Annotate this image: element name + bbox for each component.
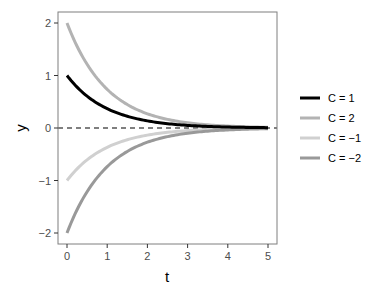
x-tick-label: 1 bbox=[104, 250, 110, 262]
y-tick-label: 0 bbox=[45, 122, 51, 134]
legend-item: C = −1 bbox=[300, 132, 361, 144]
legend-label: C = 2 bbox=[328, 112, 355, 124]
x-axis: 012345 bbox=[64, 244, 271, 262]
legend-item: C = −2 bbox=[300, 152, 361, 164]
y-tick-label: 1 bbox=[45, 70, 51, 82]
legend-label: C = −1 bbox=[328, 132, 361, 144]
series-line-4 bbox=[67, 129, 268, 233]
y-axis: −2−1012 bbox=[38, 17, 58, 239]
x-tick-label: 4 bbox=[225, 250, 231, 262]
x-tick-label: 2 bbox=[144, 250, 150, 262]
y-tick-label: 2 bbox=[45, 17, 51, 29]
x-tick-label: 0 bbox=[64, 250, 70, 262]
x-axis-title: t bbox=[165, 268, 170, 285]
plot-panel bbox=[58, 12, 277, 244]
y-tick-label: −1 bbox=[38, 175, 51, 187]
legend-label: C = 1 bbox=[328, 92, 355, 104]
y-tick-label: −2 bbox=[38, 227, 51, 239]
chart: 012345 −2−1012 t y C = 1C = 2C = −1C = −… bbox=[0, 0, 381, 295]
series-line-2 bbox=[67, 23, 268, 127]
legend-item: C = 1 bbox=[300, 92, 355, 104]
x-tick-label: 5 bbox=[265, 250, 271, 262]
y-axis-title: y bbox=[12, 124, 29, 132]
x-tick-label: 3 bbox=[185, 250, 191, 262]
legend-item: C = 2 bbox=[300, 112, 355, 124]
legend: C = 1C = 2C = −1C = −2 bbox=[300, 92, 361, 164]
legend-label: C = −2 bbox=[328, 152, 361, 164]
